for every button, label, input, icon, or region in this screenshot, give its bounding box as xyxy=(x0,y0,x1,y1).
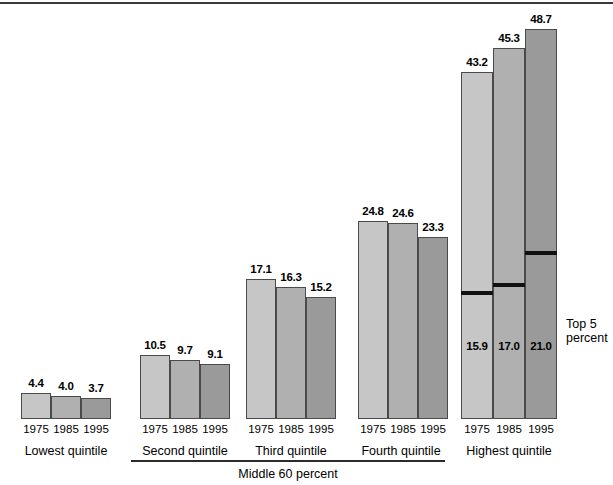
value-label-second-1985: 9.7 xyxy=(170,344,200,356)
value-label-second-1975: 10.5 xyxy=(138,339,172,351)
value-label-lowest-1985: 4.0 xyxy=(51,380,81,392)
value-label-highest-1995: 48.7 xyxy=(523,13,559,25)
value-label-lowest-1975: 4.4 xyxy=(21,377,51,389)
value-label-third-1995: 15.2 xyxy=(304,281,338,293)
value-label-highest-1975: 43.2 xyxy=(459,56,495,68)
bar-lowest-1975[interactable] xyxy=(21,393,51,419)
top5-value-1975: 15.9 xyxy=(461,340,493,352)
chart-root: 4.4 4.0 3.7 1975 1985 1995 Lowest quinti… xyxy=(0,0,613,485)
top5-divider-1985 xyxy=(493,283,525,287)
value-label-third-1975: 17.1 xyxy=(244,263,278,275)
top5-divider-1975 xyxy=(461,291,493,295)
value-label-fourth-1975: 24.8 xyxy=(356,205,390,217)
value-label-highest-1985: 45.3 xyxy=(491,32,527,44)
value-label-fourth-1985: 24.6 xyxy=(386,207,420,219)
top5-percent-annotation: Top 5 percent xyxy=(566,317,608,345)
bar-third-1995[interactable] xyxy=(306,297,336,419)
bar-second-1995[interactable] xyxy=(200,364,230,419)
grouped-bar-chart: 4.4 4.0 3.7 1975 1985 1995 Lowest quinti… xyxy=(0,0,613,485)
year-label-highest-1995: 1995 xyxy=(522,423,560,435)
value-label-second-1995: 9.1 xyxy=(200,348,230,360)
bar-second-1985[interactable] xyxy=(170,360,200,419)
bar-lowest-1995[interactable] xyxy=(81,398,111,419)
top5-value-1995: 21.0 xyxy=(525,340,557,352)
bar-highest-1985[interactable] xyxy=(493,48,525,419)
group-label-fourth-quintile: Fourth quintile xyxy=(341,444,461,458)
group-label-lowest-quintile: Lowest quintile xyxy=(6,444,126,458)
group-label-highest-quintile: Highest quintile xyxy=(449,444,569,458)
top5-percent-line2: percent xyxy=(566,331,608,345)
bar-fourth-1995[interactable] xyxy=(418,237,448,419)
year-label-lowest-1995: 1995 xyxy=(77,423,115,435)
top5-percent-line1: Top 5 xyxy=(566,317,597,331)
bar-fourth-1975[interactable] xyxy=(358,221,388,419)
bar-lowest-1985[interactable] xyxy=(51,396,81,419)
year-label-fourth-1995: 1995 xyxy=(414,423,452,435)
bar-highest-1975[interactable] xyxy=(461,72,493,419)
group-label-third-quintile: Third quintile xyxy=(231,444,351,458)
bar-second-1975[interactable] xyxy=(140,355,170,419)
value-label-fourth-1995: 23.3 xyxy=(416,221,450,233)
top5-value-1985: 17.0 xyxy=(493,340,525,352)
bar-fourth-1985[interactable] xyxy=(388,223,418,419)
top5-divider-1995 xyxy=(525,251,557,255)
year-label-second-1995: 1995 xyxy=(196,423,234,435)
bar-third-1975[interactable] xyxy=(246,279,276,419)
value-label-lowest-1995: 3.7 xyxy=(81,382,111,394)
value-label-third-1985: 16.3 xyxy=(274,271,308,283)
bar-third-1985[interactable] xyxy=(276,287,306,419)
group-label-second-quintile: Second quintile xyxy=(125,444,245,458)
year-label-third-1995: 1995 xyxy=(302,423,340,435)
middle-60-bracket-label: Middle 60 percent xyxy=(131,467,445,481)
bar-highest-1995[interactable] xyxy=(525,29,557,419)
middle-60-bracket-rule xyxy=(131,460,445,462)
